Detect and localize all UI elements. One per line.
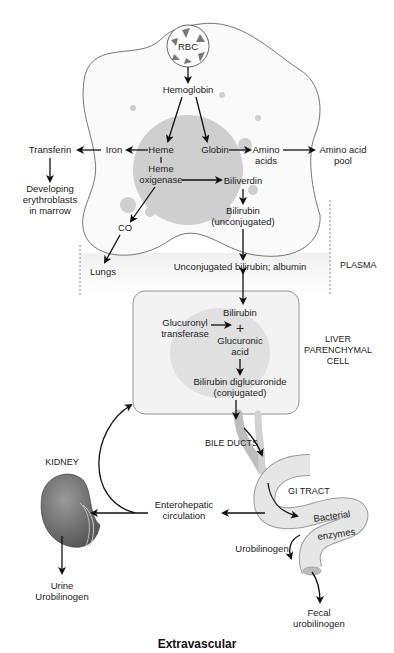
fecal-label-2: urobilinogen xyxy=(293,618,345,629)
glucuronyl-label-2: transferase xyxy=(161,328,209,339)
gi-tract-label: GI TRACT xyxy=(288,486,330,496)
biliverdin-label: Biliverdin xyxy=(224,175,263,186)
glucuronyl-label-1: Glucuronyl xyxy=(162,317,207,328)
bilirubin-metabolism-diagram: RBC Hemoglobin Heme Heme oxigenase Globi… xyxy=(0,0,394,653)
liver-label-1: LIVER xyxy=(325,334,352,344)
diglucuronide-label-1: Bilirubin diglucuronide xyxy=(194,376,287,387)
transferin-label: Transferin xyxy=(29,144,71,155)
kidney-icon xyxy=(41,474,100,547)
hemoglobin-label: Hemoglobin xyxy=(163,84,214,95)
amino-acid-pool-label-1: Amino acid xyxy=(320,144,367,155)
diglucuronide-label-2: (conjugated) xyxy=(214,387,267,398)
heme-oxigenase-label-1: Heme xyxy=(148,163,173,174)
plasma-content-label: Unconjugated bilirubin; albumin xyxy=(174,261,307,272)
heme-oxigenase-label-2: oxigenase xyxy=(139,174,182,185)
globin-label: Globin xyxy=(201,144,228,155)
developing-label-1: Developing xyxy=(26,183,74,194)
liver-label-2: PARENCHYMAL xyxy=(304,345,372,355)
developing-label-2: erythroblasts xyxy=(23,194,78,205)
plus-sign: + xyxy=(236,320,244,336)
glucuronic-label-2: acid xyxy=(231,346,248,357)
urine-label-1: Urine xyxy=(51,580,74,591)
enterohepatic-label-1: Enterohepatic xyxy=(155,499,214,510)
plasma-label: PLASMA xyxy=(340,260,377,270)
glucuronic-label-1: Glucuronic xyxy=(217,335,263,346)
urine-label-2: Urobilinogen xyxy=(35,591,88,602)
iron-label: Iron xyxy=(106,144,122,155)
enterohepatic-label-2: circulation xyxy=(163,510,206,521)
fecal-label-1: Fecal xyxy=(307,607,330,618)
heme-label: Heme xyxy=(148,144,173,155)
bile-ducts-label: BILE DUCTS xyxy=(205,438,258,448)
co-label: CO xyxy=(118,222,132,233)
liver-label-3: CELL xyxy=(327,356,350,366)
developing-label-3: in marrow xyxy=(29,205,71,216)
bilirubin-unconjugated-label-1: Bilirubin xyxy=(226,205,260,216)
diagram-title: Extravascular xyxy=(158,637,237,651)
kidney-label: KIDNEY xyxy=(45,457,79,467)
urobilinogen-label: Urobilinogen xyxy=(235,543,288,554)
bilirubin-unconjugated-label-2: (unconjugated) xyxy=(211,216,274,227)
liver-bilirubin-label: Bilirubin xyxy=(223,307,257,318)
rbc-label: RBC xyxy=(178,41,198,52)
amino-acids-label-1: Amino xyxy=(253,144,280,155)
amino-acids-label-2: acids xyxy=(255,155,277,166)
lungs-label: Lungs xyxy=(90,266,116,277)
amino-acid-pool-label-2: pool xyxy=(334,155,352,166)
